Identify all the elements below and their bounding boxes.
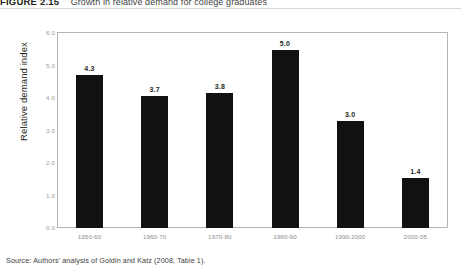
bar-group: 3.71960-70: [122, 28, 187, 228]
bar-value-label: 1.4: [383, 168, 448, 175]
y-tick-label: 3.0: [33, 127, 55, 134]
x-tick-label: 1950-60: [57, 233, 122, 240]
bar-group: 4.31950-60: [57, 28, 122, 228]
x-tick-label: 1990-2000: [318, 233, 383, 240]
x-tick-label: 1980-90: [253, 233, 318, 240]
x-tick-label: 1960-70: [122, 233, 187, 240]
bar[interactable]: [272, 50, 299, 228]
bar-group: 5.01980-90: [253, 28, 318, 228]
source-note: Source: Authors' analysis of Goldin and …: [6, 256, 206, 265]
y-tick-label: 0.0: [33, 224, 55, 231]
bar-chart: Relative demand index 6.0 5.0 4.0 3.0 2.…: [0, 14, 461, 244]
bar[interactable]: [337, 121, 364, 228]
x-tick-label: 2000-05: [383, 233, 448, 240]
bar-group: 3.81970-80: [187, 28, 252, 228]
bar[interactable]: [141, 96, 168, 228]
y-tick-label: 6.0: [33, 29, 55, 36]
bar[interactable]: [206, 93, 233, 228]
bar-value-label: 3.7: [122, 86, 187, 93]
bar-value-label: 3.0: [318, 111, 383, 118]
bar[interactable]: [402, 178, 429, 228]
y-axis-title: Relative demand index: [18, 22, 29, 162]
bar-group: 3.01990-2000: [318, 28, 383, 228]
bar[interactable]: [76, 75, 103, 228]
y-axis-ticks: 6.0 5.0 4.0 3.0 2.0 1.0 0.0: [29, 14, 55, 244]
y-tick-label: 1.0: [33, 192, 55, 199]
figure-title: Growth in relative demand for college gr…: [71, 0, 267, 7]
y-tick-label: 4.0: [33, 94, 55, 101]
x-tick-label: 1970-80: [187, 233, 252, 240]
header-divider: [0, 8, 461, 9]
figure-number: FIGURE 2.15: [0, 0, 59, 7]
figure-header: FIGURE 2.15 Growth in relative demand fo…: [0, 0, 461, 8]
bar-value-label: 4.3: [57, 65, 122, 72]
bar-group: 1.42000-05: [383, 28, 448, 228]
y-tick-label: 2.0: [33, 159, 55, 166]
bar-value-label: 5.0: [253, 40, 318, 47]
bar-value-label: 3.8: [187, 83, 252, 90]
y-tick-label: 5.0: [33, 62, 55, 69]
